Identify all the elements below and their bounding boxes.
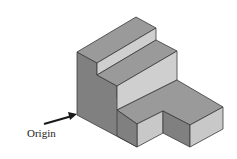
diagram-canvas: Origin [0, 0, 237, 159]
origin-label: Origin [27, 127, 56, 139]
origin-arrow-icon [44, 112, 77, 124]
